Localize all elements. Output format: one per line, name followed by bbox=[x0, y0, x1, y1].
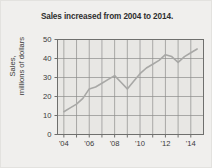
y-tick-label: 0 bbox=[36, 130, 52, 139]
x-tick-label: '14 bbox=[181, 139, 201, 148]
plot-background bbox=[58, 40, 204, 135]
x-tick-label: '04 bbox=[54, 139, 74, 148]
y-tick-label: 50 bbox=[36, 35, 52, 44]
x-tick-label: '06 bbox=[79, 139, 99, 148]
x-tick-label: '12 bbox=[155, 139, 175, 148]
y-tick-label: 10 bbox=[36, 111, 52, 120]
y-tick-label: 20 bbox=[36, 92, 52, 101]
x-tick-label: '10 bbox=[130, 139, 150, 148]
chart-figure: Sales increased from 2004 to 2014. Sales… bbox=[0, 0, 212, 168]
x-tick-label: '08 bbox=[105, 139, 125, 148]
y-tick-label: 30 bbox=[36, 73, 52, 82]
y-tick-label: 40 bbox=[36, 54, 52, 63]
